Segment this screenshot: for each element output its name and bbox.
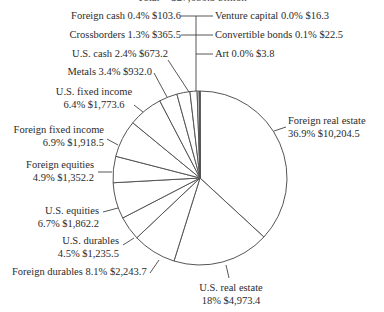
label-convertible-bonds: Convertible bonds 0.1% $22.5 (215, 29, 343, 42)
label-foreign-real-estate: Foreign real estate 36.9% $10,204.5 (288, 115, 366, 140)
label-line: U.S. equities (38, 205, 99, 218)
label-us-durables: U.S. durables 4.5% $1,235.5 (58, 235, 119, 260)
label-art: Art 0.0% $3.8 (215, 48, 275, 61)
label-line: 6.9% $1,918.5 (14, 137, 104, 150)
label-foreign-equities: Foreign equities 4.9% $1,352.2 (26, 159, 94, 184)
label-us-cash: U.S. cash 2.4% $673.2 (72, 48, 168, 61)
label-us-real-estate: U.S. real estate 18% $4,973.4 (196, 282, 266, 307)
label-line: 4.5% $1,235.5 (58, 248, 119, 261)
label-line: 6.7% $1,862.2 (38, 218, 99, 231)
label-foreign-cash: Foreign cash 0.4% $103.6 (71, 10, 181, 23)
label-foreign-fixed-income: Foreign fixed income 6.9% $1,918.5 (14, 124, 104, 149)
label-metals: Metals 3.4% $932.0 (67, 66, 152, 79)
label-line: 6.4% $1,773.6 (52, 99, 136, 112)
label-venture-capital: Venture capital 0.0% $16.3 (215, 10, 329, 23)
label-line: U.S. real estate (196, 282, 266, 295)
label-line: 36.9% $10,204.5 (288, 128, 366, 141)
label-line: U.S. durables (58, 235, 119, 248)
label-line: U.S. fixed income (52, 86, 136, 99)
chart-title: Total = $27,680.5 billion (0, 0, 384, 3)
label-line: 18% $4,973.4 (196, 295, 266, 308)
pie-slices (113, 91, 287, 265)
label-line: Foreign equities (26, 159, 94, 172)
label-line: 4.9% $1,352.2 (26, 172, 94, 185)
label-foreign-durables: Foreign durables 8.1% $2,243.7 (12, 266, 147, 279)
label-line: Foreign real estate (288, 115, 366, 128)
label-us-fixed-income: U.S. fixed income 6.4% $1,773.6 (52, 86, 136, 111)
label-line: Foreign fixed income (14, 124, 104, 137)
label-crossborders: Crossborders 1.3% $365.5 (70, 29, 181, 42)
label-us-equities: U.S. equities 6.7% $1,862.2 (38, 205, 99, 230)
